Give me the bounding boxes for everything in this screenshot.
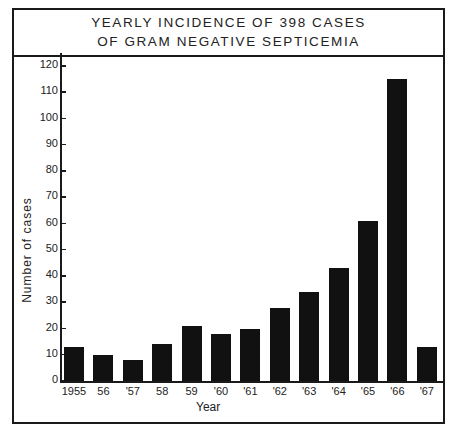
y-tick bbox=[62, 118, 66, 120]
y-tick bbox=[62, 196, 66, 198]
bar-1961 bbox=[240, 329, 260, 382]
y-tick bbox=[62, 275, 66, 277]
y-tick bbox=[62, 144, 66, 146]
bar-1967 bbox=[417, 347, 437, 381]
bar-1959 bbox=[182, 326, 202, 381]
x-tick-label: '66 bbox=[382, 385, 412, 397]
y-tick-label: 60 bbox=[18, 216, 58, 228]
y-tick-label: 90 bbox=[18, 137, 58, 149]
bar-1963 bbox=[299, 292, 319, 381]
bar-1962 bbox=[270, 308, 290, 382]
bar-1966 bbox=[387, 79, 407, 381]
x-axis-title: Year bbox=[196, 400, 220, 414]
x-tick-label: '61 bbox=[235, 385, 265, 397]
bar-1958 bbox=[152, 344, 172, 381]
y-tick bbox=[62, 91, 66, 93]
y-tick bbox=[62, 249, 66, 251]
x-tick-label: '60 bbox=[206, 385, 236, 397]
y-tick bbox=[62, 170, 66, 172]
bar-1960 bbox=[211, 334, 231, 381]
y-tick-label: 20 bbox=[18, 321, 58, 333]
chart-title-line-1: YEARLY INCIDENCE OF 398 CASES bbox=[14, 13, 443, 32]
y-tick-label: 10 bbox=[18, 347, 58, 359]
y-tick-label: 110 bbox=[18, 84, 58, 96]
x-axis bbox=[60, 381, 445, 383]
x-tick-label: 58 bbox=[147, 385, 177, 397]
y-tick-label: 100 bbox=[18, 111, 58, 123]
y-tick bbox=[62, 223, 66, 225]
y-tick-label: 30 bbox=[18, 294, 58, 306]
bar-1965 bbox=[358, 221, 378, 381]
x-tick-label: 1955 bbox=[59, 385, 89, 397]
chart-title-box: YEARLY INCIDENCE OF 398 CASES OF GRAM NE… bbox=[14, 10, 443, 57]
x-tick-label: '62 bbox=[265, 385, 295, 397]
x-tick-label: '57 bbox=[118, 385, 148, 397]
x-tick-label: 59 bbox=[177, 385, 207, 397]
y-tick bbox=[62, 301, 66, 303]
x-tick-label: 56 bbox=[88, 385, 118, 397]
bar-1957 bbox=[123, 360, 143, 381]
y-tick-label: 50 bbox=[18, 242, 58, 254]
y-tick bbox=[62, 328, 66, 330]
y-tick-label: 120 bbox=[18, 58, 58, 70]
y-tick-label: 40 bbox=[18, 268, 58, 280]
y-tick-label: 70 bbox=[18, 189, 58, 201]
y-tick-label: 0 bbox=[18, 373, 58, 385]
bar-1956 bbox=[93, 355, 113, 381]
chart-title-line-2: OF GRAM NEGATIVE SEPTICEMIA bbox=[14, 32, 443, 51]
y-tick bbox=[62, 65, 66, 67]
y-tick-label: 80 bbox=[18, 163, 58, 175]
x-tick-label: '67 bbox=[412, 385, 442, 397]
x-tick-label: '63 bbox=[294, 385, 324, 397]
x-tick-label: '65 bbox=[353, 385, 383, 397]
x-tick-label: '64 bbox=[324, 385, 354, 397]
bar-1964 bbox=[329, 268, 349, 381]
y-axis bbox=[60, 53, 62, 383]
bar-1955 bbox=[64, 347, 84, 381]
